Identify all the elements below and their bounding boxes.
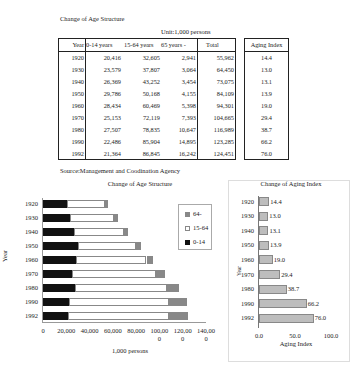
aging-table-header-divider [244, 51, 289, 52]
table-cell: 32,605 [124, 55, 160, 61]
bar-segment-1564 [69, 298, 169, 306]
bar-chart-category-label: 1940 [14, 229, 38, 236]
table-cell: 23,579 [86, 67, 121, 73]
table-cell: 10,647 [161, 127, 196, 133]
aging-index-value-label: 38.7 [288, 286, 299, 293]
bar-segment-1564 [78, 242, 136, 250]
unit-label: Unit:1,000 persons [161, 29, 210, 36]
table-cell: 94,301 [198, 103, 234, 109]
table-cell: 16,242 [161, 151, 196, 157]
bar-segment-1564 [75, 284, 167, 292]
bar-segment-1564 [67, 200, 105, 208]
aging-chart-category-label: 1980 [232, 286, 254, 293]
legend-label-64plus: 64- [193, 211, 202, 218]
aging-index-value-label: 13.0 [269, 213, 280, 220]
table-cell: 27,507 [86, 127, 121, 133]
aging-table-cell: 29.4 [245, 115, 288, 121]
table-cell: 43,252 [124, 79, 160, 85]
legend-swatch-15-64 [185, 226, 190, 231]
table-cell: 50,168 [124, 91, 160, 97]
aging-chart-category-label: 1930 [232, 213, 254, 220]
header-65plus: 65 years - [161, 42, 186, 48]
table-cell: 84,109 [198, 91, 234, 97]
bar-chart-category-label: 1980 [14, 285, 38, 292]
chart-title-aging-index: Change of Aging Index [246, 181, 336, 188]
aging-index-bar [259, 314, 314, 323]
bar-segment-014 [43, 270, 72, 278]
aging-index-bar [259, 197, 269, 206]
bar-segment-014 [43, 214, 70, 222]
table-row-year: 1992 [60, 151, 84, 157]
table-cell: 2,941 [161, 55, 196, 61]
bar-segment-64 [114, 214, 118, 222]
bar-segment-014 [43, 242, 78, 250]
aging-table-cell: 13.9 [245, 91, 288, 97]
table-cell: 73,075 [198, 79, 234, 85]
aging-chart-x-tick: 0.0 [244, 333, 274, 340]
legend-label-0-14: 0-14 [193, 239, 205, 246]
bar-chart-category-label: 1990 [14, 299, 38, 306]
bar-chart-category-label: 1960 [14, 257, 38, 264]
bar-segment-014 [43, 200, 67, 208]
bar-segment-014 [43, 228, 74, 236]
bar-segment-014 [43, 298, 69, 306]
table-cell: 104,665 [198, 115, 234, 121]
aging-index-value-label: 13.1 [269, 228, 280, 235]
table-row-year: 1980 [60, 127, 84, 133]
bar-chart-x-axis [42, 322, 206, 323]
table-row-year: 1950 [60, 91, 84, 97]
table-cell: 29,786 [86, 91, 121, 97]
aging-index-value-label: 13.9 [270, 242, 281, 249]
aging-chart-x-label: Aging Index [266, 341, 326, 348]
table-cell: 37,807 [124, 67, 160, 73]
source-note: Source:Management and Coodination Agency [60, 168, 180, 175]
aging-index-bar [259, 285, 287, 294]
bar-chart-category-label: 1920 [14, 201, 38, 208]
bar-chart-category-label: 1970 [14, 271, 38, 278]
table-cell: 78,835 [124, 127, 160, 133]
bar-segment-64 [169, 298, 186, 306]
table-cell: 22,486 [86, 139, 121, 145]
table-row-year: 1990 [60, 139, 84, 145]
aging-chart-category-label: 1960 [232, 257, 254, 264]
chart-legend: 64- 15-64 0-14 [178, 204, 212, 250]
table-cell: 25,153 [86, 115, 121, 121]
aging-table-border-bottom [244, 159, 289, 160]
legend-swatch-0-14 [185, 240, 190, 245]
table-row-year: 1960 [60, 103, 84, 109]
table-cell: 3,454 [161, 79, 196, 85]
bar-chart-x-label: 1,000 persons [100, 348, 160, 355]
table-border-right [235, 38, 236, 160]
bar-segment-64 [124, 228, 128, 236]
header-total: Total [206, 42, 219, 48]
aging-index-bar [259, 270, 280, 279]
bar-segment-1564 [72, 270, 156, 278]
table-cell: 5,398 [161, 103, 196, 109]
table-cell: 85,904 [124, 139, 160, 145]
bar-segment-1564 [76, 256, 146, 264]
aging-chart-x-tick: 100.0 [316, 333, 346, 340]
bar-segment-014 [43, 312, 68, 320]
legend-swatch-64plus [185, 212, 190, 217]
aging-chart-category-label: 1992 [232, 315, 254, 322]
aging-table-cell: 14.4 [245, 55, 288, 61]
table-row-year: 1940 [60, 79, 84, 85]
aging-index-bar [259, 212, 268, 221]
bar-chart-x-tick: 140,00 0 [186, 327, 226, 343]
aging-table-cell: 38.7 [245, 127, 288, 133]
table-cell: 4,155 [161, 91, 196, 97]
aging-chart-category-label: 1950 [232, 242, 254, 249]
aging-index-value-label: 76.0 [315, 315, 326, 322]
aging-index-bar [259, 226, 268, 235]
table-cell: 60,469 [124, 103, 160, 109]
table-cell: 28,434 [86, 103, 121, 109]
aging-table-cell: 19.0 [245, 103, 288, 109]
bar-segment-64 [169, 312, 188, 320]
table-cell: 86,845 [124, 151, 160, 157]
aging-index-bar [259, 255, 273, 264]
bar-segment-014 [43, 284, 75, 292]
bar-segment-64 [136, 242, 141, 250]
table-cell: 124,451 [198, 151, 234, 157]
table-cell: 64,450 [198, 67, 234, 73]
aging-table-cell: 13.0 [245, 67, 288, 73]
